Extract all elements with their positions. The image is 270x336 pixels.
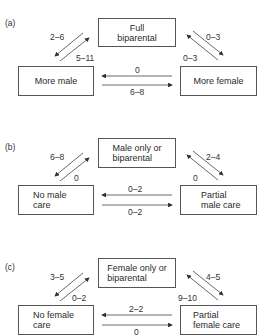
state-box-top: Fullbiparental	[98, 18, 176, 47]
rate-right-to-top: 0–3	[183, 53, 197, 63]
box-text: Partial	[193, 310, 256, 320]
panel-c: (c) Female only orbiparental No female c…	[0, 258, 270, 336]
box-text: No male	[33, 190, 93, 200]
box-text: No female	[33, 310, 93, 320]
state-box-right: More female	[180, 66, 257, 96]
rate-left-to-right: 0	[134, 327, 139, 336]
state-box-top: Female only orbiparental	[98, 258, 176, 288]
box-text: Male only or	[112, 143, 161, 153]
box-text: Full	[117, 23, 157, 33]
rate-left-to-right: 0–2	[128, 207, 142, 217]
state-box-left: More male	[18, 66, 94, 96]
panel-b: (b) Male only orbiparental No male care …	[0, 138, 270, 248]
state-box-right: Partial female care	[180, 305, 257, 335]
box-text: care	[33, 320, 93, 330]
state-box-right: Partial male care	[180, 185, 257, 215]
rate-left-to-top: 5–11	[76, 53, 94, 63]
state-box-top: Male only orbiparental	[98, 138, 176, 168]
box-text: More female	[193, 76, 243, 86]
state-box-left: No female care	[18, 305, 94, 335]
rate-top-to-left: 2–6	[50, 32, 64, 42]
panel-a: (a) Fullbiparental More male More female…	[0, 18, 270, 128]
rate-right-to-left: 0–2	[128, 184, 142, 194]
rate-left-to-top: 0–2	[72, 293, 86, 303]
box-text: male care	[201, 200, 256, 210]
box-text: female care	[193, 320, 256, 330]
box-text: biparental	[112, 153, 161, 163]
box-text: care	[33, 200, 93, 210]
box-text: Female only or	[107, 263, 167, 273]
rate-right-to-left: 2–2	[129, 304, 143, 314]
rate-top-to-left: 6–8	[50, 152, 64, 162]
box-text: biparental	[117, 33, 157, 43]
box-text: More male	[35, 76, 78, 86]
box-text: biparental	[107, 273, 167, 283]
rate-top-to-right: 2–4	[206, 152, 220, 162]
rate-top-to-right: 0–3	[206, 32, 220, 42]
rate-top-to-left: 3–5	[50, 272, 64, 282]
box-text: Partial	[201, 190, 256, 200]
rate-left-to-top: 0	[74, 173, 79, 183]
rate-right-to-top: 9–10	[178, 293, 197, 303]
state-box-left: No male care	[18, 185, 94, 215]
rate-top-to-right: 4–5	[206, 272, 220, 282]
rate-right-to-top: 0	[193, 173, 198, 183]
rate-right-to-left: 0	[135, 65, 140, 75]
rate-left-to-right: 6–8	[130, 87, 144, 97]
